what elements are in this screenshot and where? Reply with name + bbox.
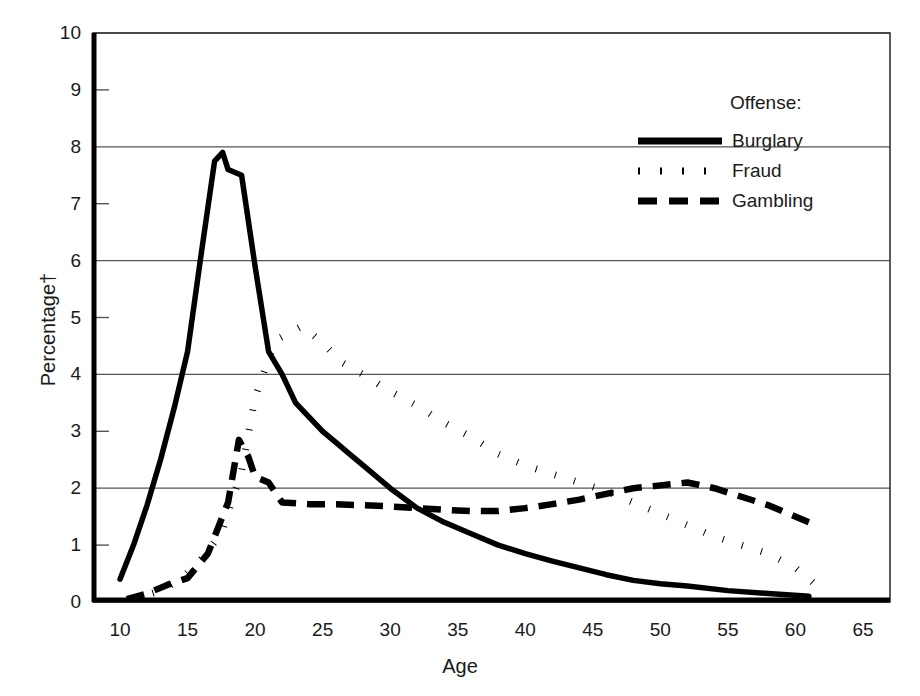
x-tick-label: 30 [366, 620, 414, 639]
chart-figure: Percentage† Age 012345678910 10152025303… [0, 0, 920, 696]
legend-swatch-dashed-icon [636, 192, 724, 210]
legend-label: Burglary [732, 130, 803, 152]
series-line-gambling [127, 440, 809, 599]
y-tick-label: 9 [45, 80, 81, 99]
legend-item-gambling: Gambling [636, 186, 886, 216]
x-tick-label: 20 [231, 620, 279, 639]
chart-legend: Offense: BurglaryFraudGambling [636, 92, 886, 216]
x-tick-label: 15 [164, 620, 212, 639]
x-tick-label: 55 [704, 620, 752, 639]
x-tick-label: 50 [636, 620, 684, 639]
data-series-group [120, 152, 816, 599]
legend-label: Fraud [732, 160, 782, 182]
y-tick-label: 3 [45, 421, 81, 440]
x-tick-label: 25 [299, 620, 347, 639]
y-tick-label: 4 [45, 364, 81, 383]
x-tick-label: 35 [434, 620, 482, 639]
x-tick-label: 40 [501, 620, 549, 639]
legend-item-fraud: Fraud [636, 156, 886, 186]
legend-rows: BurglaryFraudGambling [636, 126, 886, 216]
y-tick-label: 2 [45, 478, 81, 497]
y-tick-label: 8 [45, 137, 81, 156]
y-tick-label: 5 [45, 308, 81, 327]
legend-swatch-dotted-icon [636, 162, 724, 180]
x-tick-label: 60 [771, 620, 819, 639]
x-axis-label: Age [0, 655, 920, 678]
y-tick-label: 0 [45, 592, 81, 611]
legend-label: Gambling [732, 190, 813, 212]
x-tick-label: 65 [839, 620, 887, 639]
x-tick-label: 45 [569, 620, 617, 639]
legend-swatch-solid-icon [636, 132, 724, 150]
y-tick-marks-group [95, 90, 109, 545]
y-tick-label: 1 [45, 535, 81, 554]
y-axis-label: Percentage† [37, 250, 60, 410]
y-tick-label: 10 [45, 23, 81, 42]
x-tick-label: 10 [96, 620, 144, 639]
legend-item-burglary: Burglary [636, 126, 886, 156]
y-tick-label: 7 [45, 194, 81, 213]
y-tick-label: 6 [45, 251, 81, 270]
legend-title: Offense: [730, 92, 886, 114]
